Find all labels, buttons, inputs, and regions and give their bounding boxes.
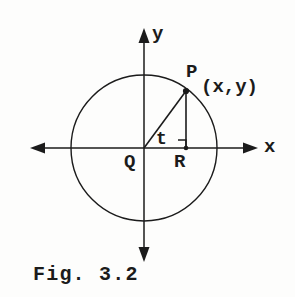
x-axis-label: x bbox=[264, 138, 275, 157]
point-label-P: P bbox=[186, 63, 197, 82]
point-label-R: R bbox=[174, 153, 185, 172]
coordinate-label-xy: (x,y) bbox=[201, 78, 258, 97]
point-dot-P bbox=[183, 88, 189, 94]
y-axis-up-arrow-icon bbox=[139, 28, 150, 43]
y-axis-down-arrow-icon bbox=[139, 247, 150, 262]
point-label-Q: Q bbox=[124, 153, 135, 172]
point-dot-R bbox=[184, 146, 189, 151]
figure-caption: Fig. 3.2 bbox=[33, 265, 139, 285]
y-axis-label: y bbox=[152, 25, 163, 44]
x-axis-left-arrow-icon bbox=[30, 143, 45, 154]
figure-3-2: y x P (x,y) t Q R Fig. 3.2 bbox=[0, 0, 295, 297]
x-axis-right-arrow-icon bbox=[243, 143, 258, 154]
figure-drawing bbox=[0, 0, 295, 297]
angle-label-t: t bbox=[156, 130, 167, 148]
